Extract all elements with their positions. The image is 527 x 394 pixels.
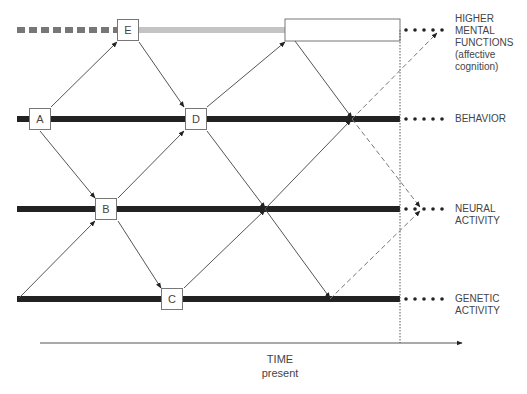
node-b-label: B xyxy=(102,203,109,215)
time-axis-label: TIME present xyxy=(240,352,320,380)
label-higher-mental-functions: HIGHER MENTAL FUNCTIONS (affective cogni… xyxy=(455,13,513,73)
label-line: FUNCTIONS xyxy=(455,37,513,49)
label-line: HIGHER xyxy=(455,13,513,25)
node-a: A xyxy=(29,108,51,130)
label-neural-activity: NEURAL ACTIVITY xyxy=(455,203,500,227)
projected-arrows xyxy=(330,33,437,299)
label-line: (affective xyxy=(455,49,513,61)
node-e-label: E xyxy=(124,24,131,36)
label-behavior: BEHAVIOR xyxy=(455,113,506,125)
node-c-label: C xyxy=(168,293,176,305)
label-line: NEURAL xyxy=(455,203,500,215)
node-e: E xyxy=(117,19,139,41)
node-a-label: A xyxy=(36,113,43,125)
node-d: D xyxy=(185,108,207,130)
label-line: BEHAVIOR xyxy=(455,113,506,125)
node-d-label: D xyxy=(192,113,200,125)
label-line: ACTIVITY xyxy=(455,215,500,227)
higher-function-box xyxy=(285,19,400,41)
present-label: present xyxy=(240,366,320,380)
label-genetic-activity: GENETIC ACTIVITY xyxy=(455,293,500,317)
diagram-canvas xyxy=(0,0,527,394)
node-c: C xyxy=(161,288,183,310)
causal-arrows xyxy=(19,41,352,298)
label-line: MENTAL xyxy=(455,25,513,37)
label-line: cognition) xyxy=(455,61,513,73)
label-line: ACTIVITY xyxy=(455,305,500,317)
node-b: B xyxy=(95,198,117,220)
label-line: GENETIC xyxy=(455,293,500,305)
present-extensions xyxy=(404,28,444,301)
time-label: TIME xyxy=(240,352,320,366)
